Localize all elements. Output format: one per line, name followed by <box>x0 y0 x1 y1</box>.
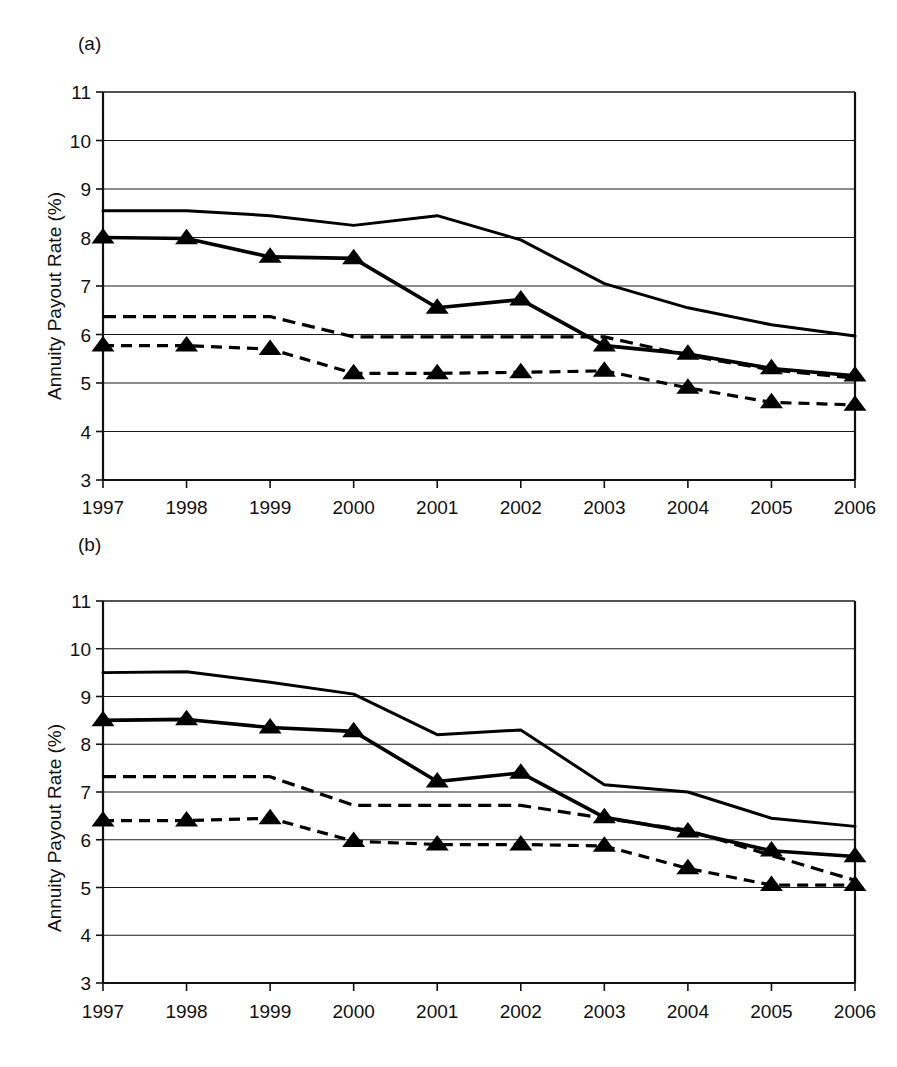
data-point-marker <box>509 363 532 379</box>
y-tick-label: 7 <box>80 782 91 803</box>
x-tick-label: 2004 <box>667 1001 710 1022</box>
panel-b-plot: 3456789101119971998199920002001200220032… <box>0 512 897 1067</box>
data-point-marker <box>259 339 282 355</box>
y-tick-label: 8 <box>80 734 91 755</box>
y-tick-label: 5 <box>80 373 91 394</box>
data-point-marker <box>92 811 115 827</box>
x-tick-label: 2001 <box>416 1001 458 1022</box>
data-point-marker <box>92 228 115 244</box>
panel-a-plot: 3456789101119971998199920002001200220032… <box>0 0 897 512</box>
x-tick-label: 2006 <box>834 1001 876 1022</box>
y-tick-label: 9 <box>80 687 91 708</box>
data-point-marker <box>259 809 282 825</box>
data-point-marker <box>844 395 867 411</box>
data-point-marker <box>175 336 198 352</box>
y-tick-label: 6 <box>80 325 91 346</box>
y-tick-label: 6 <box>80 830 91 851</box>
y-tick-label: 8 <box>80 228 91 249</box>
chart-panel-b: (b) Annuity Payout Rate (%) 345678910111… <box>0 512 897 1067</box>
x-tick-label: 2003 <box>583 1001 625 1022</box>
y-tick-label: 7 <box>80 276 91 297</box>
data-point-marker <box>593 836 616 852</box>
chart-panel-a: (a) Annuity Payout Rate (%) 345678910111… <box>0 0 897 512</box>
figure-annuity-payout-rates: (a) Annuity Payout Rate (%) 345678910111… <box>0 0 897 1067</box>
x-tick-label: 1998 <box>165 1001 207 1022</box>
y-tick-label: 10 <box>70 639 91 660</box>
data-point-marker <box>509 290 532 306</box>
series-line-solid-triangle-marker <box>103 238 855 376</box>
series-line-dashed-triangle-marker <box>103 346 855 405</box>
y-tick-label: 10 <box>70 131 91 152</box>
series-line-dashed-triangle-marker <box>103 818 855 885</box>
y-tick-label: 4 <box>80 422 91 443</box>
series-line-solid-no-marker <box>103 672 855 827</box>
x-tick-label: 1999 <box>249 1001 291 1022</box>
data-point-marker <box>509 763 532 779</box>
y-tick-label: 11 <box>71 82 91 103</box>
x-tick-label: 2000 <box>333 1001 375 1022</box>
data-point-marker <box>593 361 616 377</box>
x-tick-label: 2005 <box>750 1001 792 1022</box>
y-tick-label: 5 <box>80 878 91 899</box>
y-tick-label: 4 <box>80 925 91 946</box>
x-tick-label: 2002 <box>500 1001 542 1022</box>
data-point-marker <box>175 710 198 726</box>
y-tick-label: 9 <box>80 179 91 200</box>
y-tick-label: 3 <box>80 973 91 994</box>
data-point-marker <box>175 811 198 827</box>
data-point-marker <box>342 364 365 380</box>
y-tick-label: 11 <box>71 591 91 612</box>
data-point-marker <box>92 336 115 352</box>
x-tick-label: 1997 <box>82 1001 124 1022</box>
data-point-marker <box>509 835 532 851</box>
data-point-marker <box>593 808 616 824</box>
data-point-marker <box>426 364 449 380</box>
data-point-marker <box>844 876 867 892</box>
y-tick-label: 3 <box>80 470 91 491</box>
series-line-solid-triangle-marker <box>103 719 855 856</box>
